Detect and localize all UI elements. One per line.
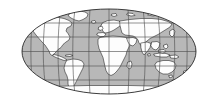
land-svalbard <box>112 14 118 17</box>
land-tasmania <box>169 75 173 78</box>
world-map-svg <box>0 0 216 104</box>
world-map-figure: World map <box>0 0 216 104</box>
land-iberia <box>97 33 106 37</box>
land-madagascar <box>127 61 132 69</box>
land-sri-lanka <box>148 54 151 57</box>
